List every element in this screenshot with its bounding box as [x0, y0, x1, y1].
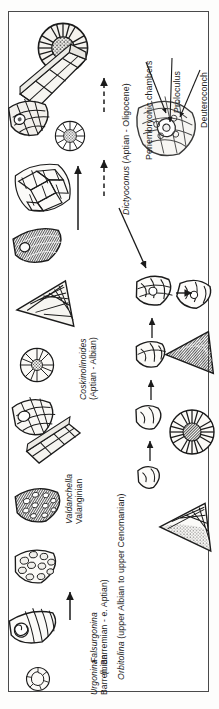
annotation-proloculus: Proloculus [172, 71, 182, 113]
specimen-orbitolina-embryo-5 [134, 275, 173, 307]
specimen-orbitolina-embryo-4 [176, 279, 212, 310]
taxon-range-dictyoconus: (Aptian - Oligocene) [121, 83, 131, 163]
taxon-range-coskinolinoides: (Aptian - Albian) [88, 337, 98, 400]
taxon-range-valdanchella: Valanginian [74, 474, 84, 524]
taxon-label-dictyoconus: Dictyoconus (Aptian - Oligocene) [121, 83, 131, 215]
specimen-coskinolinoides-disc [20, 348, 53, 381]
taxon-label-coskinolinoides: Coskinolinoides (Aptian - Albian) [78, 337, 98, 400]
specimen-urgonina-conical [6, 603, 61, 650]
leader-deuteroconch [180, 70, 200, 117]
specimen-orbitolina-embryo-2 [134, 403, 164, 432]
specimen-orbitolina-embryo-1 [135, 464, 162, 491]
annotation-deuteroconch: Deuteroconch [199, 72, 209, 128]
taxon-genus-dictyoconus: Dictyoconus [121, 166, 131, 215]
specimen-orbitolina-disc-dark [170, 410, 214, 454]
taxon-range-urgonina: Barremian [99, 654, 109, 695]
arrow-to-orbitolina-lineage [119, 208, 146, 268]
taxon-genus-coskinolinoides: Coskinolinoides [78, 337, 88, 400]
annotation-periembryonic-chambers: Periembryonic chambers [144, 61, 154, 161]
taxon-label-orbitolina: Orbitolina (upper Albian to upper Cenoma… [116, 494, 126, 680]
taxon-label-urgonina: Urgonina Barremian [89, 654, 109, 695]
annotation-label: Deuteroconch [199, 72, 209, 128]
specimen-embryo-detail [133, 92, 200, 160]
specimen-orbitolina-triangle-light [159, 503, 211, 553]
specimen-orbitolina-triangle-dark [165, 332, 214, 377]
taxon-label-valdanchella: Valdanchella Valanginian [64, 474, 84, 524]
specimen-dictyoconus-disc-small [55, 121, 84, 150]
specimen-coskinolinoides-triangle [14, 281, 74, 334]
specimen-urgonina-equatorial [27, 668, 50, 691]
specimen-dictyoconus-skeletal [12, 160, 74, 216]
annotation-label: Proloculus [172, 71, 182, 113]
taxon-genus-valdanchella: Valdanchella [64, 474, 74, 524]
specimen-valdanchella-section [13, 484, 64, 528]
taxon-genus-urgonina: Urgonina [89, 654, 99, 695]
annotation-label: Periembryonic chambers [144, 61, 154, 161]
taxon-range-orbitolina: (upper Albian to upper Cenomanian) [116, 494, 126, 639]
foraminifera-lineage-figure: Dictyoconus (Aptian - Oligocene) Periemb… [0, 0, 219, 709]
figure-illustrations [0, 0, 219, 709]
specimen-coskinolinoides-dark [10, 223, 67, 269]
taxon-genus-orbitolina: Orbitolina [116, 641, 126, 680]
specimen-falsurgonina-test [12, 546, 60, 587]
specimen-orbitolina-embryo-3 [134, 339, 168, 369]
